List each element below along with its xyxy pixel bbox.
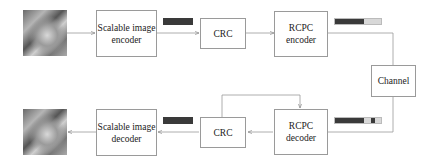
block-label: Scalable image decoder: [97, 121, 156, 145]
scalable-image-decoder-block: Scalable image decoder: [96, 109, 157, 156]
crc-encoder-block: CRC: [200, 18, 246, 49]
block-label: RCPC encoder: [283, 22, 319, 46]
scalable-image-encoder-block: Scalable image encoder: [96, 10, 157, 57]
block-label: RCPC decoder: [283, 120, 319, 144]
block-label: Scalable image encoder: [97, 22, 156, 46]
rcpc-decoder-block: RCPC decoder: [274, 109, 328, 155]
channel-block: Channel: [371, 65, 416, 97]
output-image: [23, 109, 67, 155]
corrupted-bitstream: [334, 117, 382, 124]
source-bitstream-encoder: [163, 18, 193, 25]
coded-bitstream: [334, 18, 382, 25]
source-bitstream-decoder: [163, 117, 193, 124]
input-image: [23, 10, 67, 56]
block-label: CRC: [213, 28, 232, 40]
rcpc-encoder-block: RCPC encoder: [274, 11, 328, 57]
block-label: CRC: [213, 127, 232, 139]
block-label: Channel: [378, 75, 410, 87]
crc-decoder-block: CRC: [200, 117, 246, 148]
